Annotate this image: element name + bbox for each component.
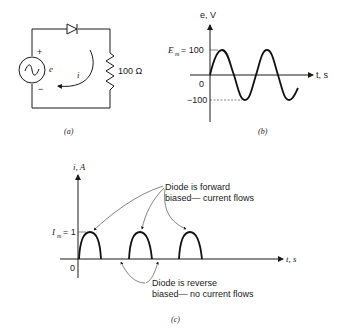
reverse-annotation-line2: biased— no current flows (152, 289, 254, 299)
im-sub: m (57, 233, 62, 239)
neg-label: −100 (187, 95, 207, 105)
current-plot-panel: i, A t, s I m = 1 0 Diode is forward bia… (51, 162, 297, 324)
minus-sign: − (38, 84, 43, 94)
caption-c: (c) (171, 315, 180, 324)
diode-icon (67, 24, 77, 34)
x-axis-label: t, s (286, 254, 297, 264)
pulse-1 (79, 232, 101, 259)
reverse-arrow-1 (121, 262, 145, 283)
forward-arrow-1 (94, 186, 163, 230)
pulse-3 (179, 232, 202, 259)
forward-annotation-line1: Diode is forward (165, 182, 230, 192)
resistor-icon (106, 53, 114, 90)
im-label: I (51, 227, 56, 237)
circuit-panel: + − e i 100 Ω (a) (19, 24, 143, 136)
ac-source-icon (19, 57, 45, 83)
im-value: = 1 (63, 227, 76, 237)
em-value: = 100 (181, 45, 204, 55)
resistor-label: 100 Ω (118, 66, 143, 76)
forward-arrow-2 (142, 188, 164, 229)
em-label: E (167, 45, 174, 55)
current-label: i (77, 70, 80, 80)
pulse-2 (129, 232, 152, 259)
zero-label: 0 (70, 263, 75, 273)
forward-annotation-line2: biased— current flows (165, 193, 255, 203)
reverse-annotation-line1: Diode is reverse (152, 278, 217, 288)
caption-a: (a) (64, 127, 74, 136)
diagram-canvas: + − e i 100 Ω (a) e, V t, s E m = 100 0 … (0, 0, 349, 331)
current-arrow-icon (58, 50, 93, 86)
x-axis-label: t, s (316, 70, 329, 80)
y-axis-label: e, V (200, 10, 216, 20)
top-wire-right (78, 29, 110, 53)
source-label: e (49, 64, 53, 74)
voltage-plot-panel: e, V t, s E m = 100 0 −100 (b) (167, 10, 329, 136)
y-axis-label: i, A (73, 162, 86, 172)
zero-label: 0 (199, 79, 204, 89)
caption-b: (b) (258, 127, 268, 136)
bottom-wire (32, 84, 110, 108)
em-sub: m (175, 51, 180, 57)
plus-sign: + (37, 47, 42, 57)
